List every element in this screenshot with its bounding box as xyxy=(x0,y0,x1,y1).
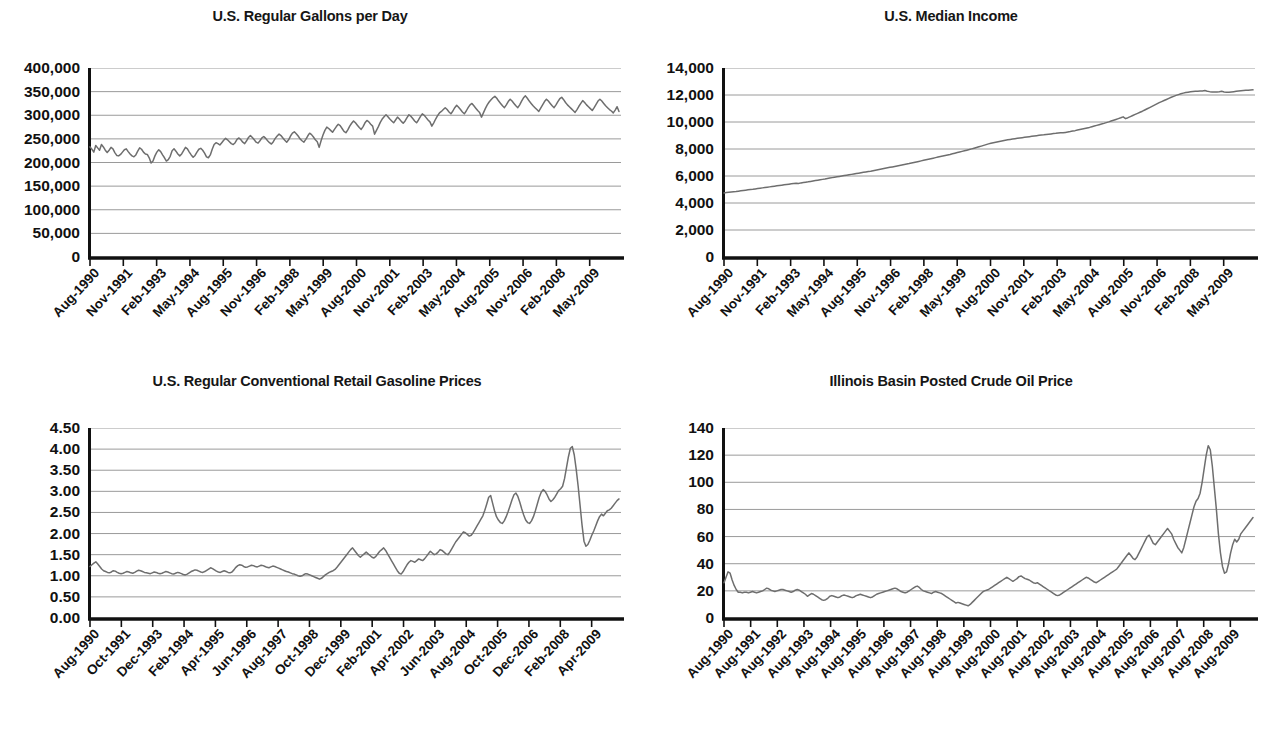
panel-us-regular-gallons-per-day: U.S. Regular Gallons per Day 050,000100,… xyxy=(0,0,634,365)
panel-us-median-income: U.S. Median Income 02,0004,0006,0008,000… xyxy=(634,0,1268,365)
x-axis-labels-crude-oil-price: Aug-1990Aug-1991Aug-1992Aug-1993Aug-1994… xyxy=(722,627,1255,727)
chart-svg xyxy=(722,68,1261,271)
y-tick-label: 3.00 xyxy=(50,484,80,500)
y-tick-label: 2,000 xyxy=(675,222,714,238)
data-series-line xyxy=(724,446,1253,606)
chart-title-median-income: U.S. Median Income xyxy=(634,8,1268,24)
y-tick-label: 0.00 xyxy=(50,610,80,626)
y-tick-label: 12,000 xyxy=(667,87,714,103)
y-tick-label: 4.00 xyxy=(50,441,80,457)
plot-area-gasoline-prices xyxy=(88,428,621,618)
y-tick-label: 0 xyxy=(71,249,80,265)
y-tick-label: 150,000 xyxy=(24,178,80,194)
y-tick-label: 100 xyxy=(688,475,714,491)
x-axis-labels-median-income: Aug-1990Nov-1991Feb-1993May-1994Aug-1995… xyxy=(722,266,1255,366)
y-tick-label: 10,000 xyxy=(667,114,714,130)
x-axis-labels-gasoline-prices: Aug-1990Oct-1991Dec-1993Feb-1994Apr-1995… xyxy=(88,627,621,727)
plot-area-crude-oil-price xyxy=(722,428,1255,618)
y-tick-label: 80 xyxy=(697,502,714,518)
y-tick-label: 2.50 xyxy=(50,505,80,521)
chart-title-gasoline-prices: U.S. Regular Conventional Retail Gasolin… xyxy=(0,373,634,389)
y-axis-labels-crude-oil-price: 020406080100120140 xyxy=(634,428,714,618)
y-tick-label: 350,000 xyxy=(24,84,80,100)
y-tick-label: 2.00 xyxy=(50,526,80,542)
y-axis-labels-gasoline-prices: 0.000.501.001.502.002.503.003.504.004.50 xyxy=(0,428,80,618)
y-tick-label: 120 xyxy=(688,447,714,463)
y-tick-label: 0 xyxy=(705,249,714,265)
y-tick-label: 3.50 xyxy=(50,462,80,478)
y-tick-label: 100,000 xyxy=(24,202,80,218)
y-tick-label: 14,000 xyxy=(667,60,714,76)
charts-grid: U.S. Regular Gallons per Day 050,000100,… xyxy=(0,0,1268,729)
panel-illinois-basin-crude-oil-price: Illinois Basin Posted Crude Oil Price 02… xyxy=(634,365,1268,729)
data-series-line xyxy=(90,96,619,163)
y-tick-label: 200,000 xyxy=(24,155,80,171)
chart-title-gallons: U.S. Regular Gallons per Day xyxy=(10,8,610,24)
y-tick-label: 250,000 xyxy=(24,131,80,147)
y-tick-label: 20 xyxy=(697,583,714,599)
y-tick-label: 0.50 xyxy=(50,589,80,605)
y-tick-label: 50,000 xyxy=(33,226,80,242)
panel-us-retail-gasoline-prices: U.S. Regular Conventional Retail Gasolin… xyxy=(0,365,634,729)
chart-svg xyxy=(88,68,627,271)
y-tick-label: 60 xyxy=(697,529,714,545)
y-tick-label: 4,000 xyxy=(675,195,714,211)
y-tick-label: 6,000 xyxy=(675,168,714,184)
y-tick-label: 400,000 xyxy=(24,60,80,76)
y-tick-label: 4.50 xyxy=(50,420,80,436)
y-tick-label: 1.50 xyxy=(50,547,80,563)
y-tick-label: 300,000 xyxy=(24,108,80,124)
x-axis-labels-gallons: Aug-1990Nov-1991Feb-1993May-1994Aug-1995… xyxy=(88,266,621,366)
y-tick-label: 8,000 xyxy=(675,141,714,157)
chart-svg xyxy=(722,428,1261,632)
y-axis-labels-gallons: 050,000100,000150,000200,000250,000300,0… xyxy=(0,68,80,257)
data-series-line xyxy=(724,90,1253,193)
plot-area-gallons xyxy=(88,68,621,257)
y-axis-labels-median-income: 02,0004,0006,0008,00010,00012,00014,000 xyxy=(634,68,714,257)
chart-title-crude-oil-price: Illinois Basin Posted Crude Oil Price xyxy=(634,373,1268,389)
plot-area-median-income xyxy=(722,68,1255,257)
y-tick-label: 1.00 xyxy=(50,568,80,584)
chart-svg xyxy=(88,428,627,632)
y-tick-label: 40 xyxy=(697,556,714,572)
y-tick-label: 140 xyxy=(688,420,714,436)
y-tick-label: 0 xyxy=(705,610,714,626)
